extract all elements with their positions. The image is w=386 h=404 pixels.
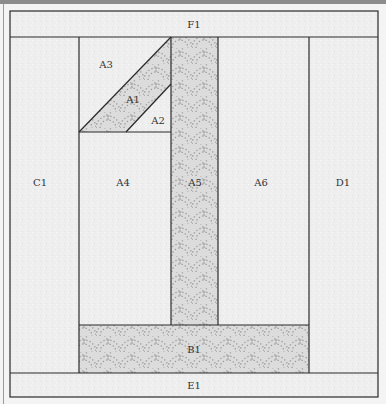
label-E1: E1 xyxy=(187,380,201,391)
label-A3: A3 xyxy=(98,59,113,70)
label-A1: A1 xyxy=(125,94,140,105)
label-B1: B1 xyxy=(187,344,201,355)
label-D1: D1 xyxy=(336,177,350,188)
label-A4: A4 xyxy=(115,177,130,188)
label-A5: A5 xyxy=(187,177,202,188)
label-A2: A2 xyxy=(150,115,165,126)
label-C1: C1 xyxy=(33,177,47,188)
label-F1: F1 xyxy=(187,19,200,30)
quilt-block-diagram: F1 C1 A3 A1 A2 A4 A5 A6 D1 B1 E1 xyxy=(0,0,386,404)
label-A6: A6 xyxy=(253,177,268,188)
